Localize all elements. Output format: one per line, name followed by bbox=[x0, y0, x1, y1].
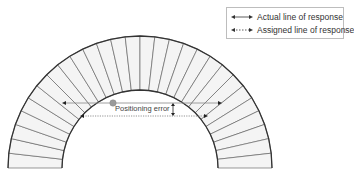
legend-label-actual: Actual line of response bbox=[257, 11, 343, 23]
solid-double-arrow-icon bbox=[231, 13, 253, 21]
dotted-double-arrow-icon bbox=[231, 26, 253, 34]
legend: Actual line of response Assigned line of… bbox=[226, 7, 344, 39]
legend-label-assigned: Assigned line of response bbox=[257, 24, 354, 36]
positioning-error-label: Positioning error bbox=[115, 104, 170, 113]
detector-ring bbox=[8, 36, 272, 168]
